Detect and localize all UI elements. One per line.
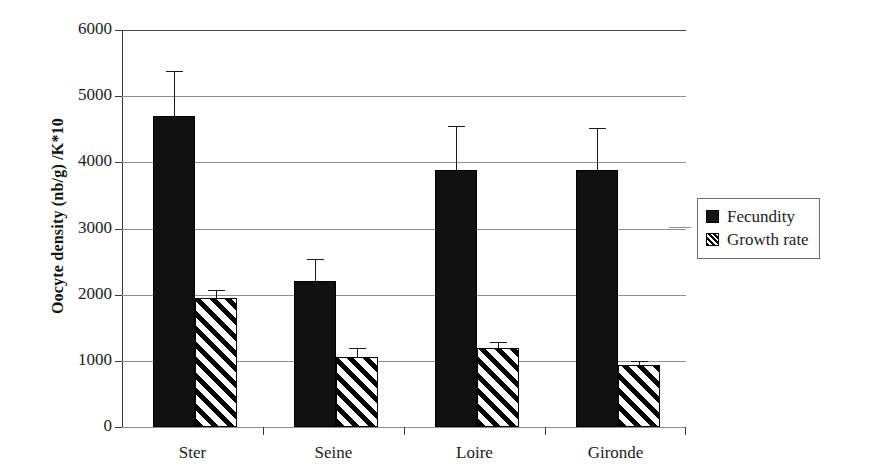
error-bar-stem: [216, 290, 217, 299]
y-axis-tick: [115, 427, 122, 428]
y-axis-tick-label: 6000: [78, 19, 112, 39]
bar-chart: Oocyte density (nb/g) /K*10 010002000300…: [0, 0, 873, 474]
y-axis-tick-label: 0: [104, 416, 113, 436]
y-axis-tick: [115, 162, 122, 163]
plot-area: 0100020003000400050006000SterSeineLoireG…: [122, 31, 686, 428]
error-bar-stem: [174, 71, 175, 117]
x-axis-separator-tick: [404, 427, 405, 435]
bar-fecundity: [294, 281, 336, 427]
bar-growth-rate: [618, 365, 660, 427]
gridline: [122, 30, 686, 31]
legend-item-label: Fecundity: [727, 207, 795, 227]
y-axis-tick: [115, 96, 122, 97]
solid-black-square-icon: [706, 210, 719, 223]
y-axis-tick-label: 3000: [78, 218, 112, 238]
x-axis-separator-tick: [263, 427, 264, 435]
error-bar-stem: [456, 126, 457, 171]
y-axis-title: Oocyte density (nb/g) /K*10: [49, 51, 67, 381]
y-axis-tick: [115, 30, 122, 31]
error-bar-stem: [498, 342, 499, 349]
x-axis-tick-label: Gironde: [588, 443, 644, 463]
x-axis-end-tick: [685, 427, 686, 435]
bar-fecundity: [576, 170, 618, 427]
gridline: [122, 162, 686, 163]
error-bar-cap: [448, 126, 465, 127]
y-axis-tick: [115, 229, 122, 230]
bar-growth-rate: [477, 348, 519, 427]
bar-growth-rate: [195, 298, 237, 427]
bar-fecundity: [153, 116, 195, 427]
y-axis-tick: [115, 361, 122, 362]
x-axis-tick-label: Seine: [315, 443, 353, 463]
x-axis-tick-label: Ster: [179, 443, 206, 463]
error-bar-cap: [349, 348, 366, 349]
error-bar-cap: [631, 361, 648, 362]
x-axis-tick-label: Loire: [456, 443, 493, 463]
error-bar-cap: [490, 342, 507, 343]
y-axis-tick-label: 5000: [78, 86, 112, 106]
legend-item[interactable]: Growth rate: [706, 228, 809, 251]
hatched-square-icon: [706, 233, 719, 246]
gridline: [122, 96, 686, 97]
error-bar-stem: [597, 128, 598, 172]
y-axis-tick-label: 2000: [78, 284, 112, 304]
error-bar-cap: [307, 259, 324, 260]
error-bar-cap: [589, 128, 606, 129]
legend-item-label: Growth rate: [727, 230, 809, 250]
bar-growth-rate: [336, 357, 378, 427]
bar-fecundity: [435, 170, 477, 427]
x-axis-separator-tick: [545, 427, 546, 435]
chart-legend: FecundityGrowth rate: [697, 198, 820, 259]
y-axis-tick: [115, 295, 122, 296]
error-bar-stem: [315, 259, 316, 282]
legend-item[interactable]: Fecundity: [706, 205, 809, 228]
y-axis-tick-label: 1000: [78, 350, 112, 370]
legend-leader-line: [669, 227, 691, 228]
error-bar-cap: [166, 71, 183, 72]
error-bar-stem: [357, 348, 358, 358]
y-axis-line: [122, 31, 123, 428]
y-axis-tick-label: 4000: [78, 152, 112, 172]
error-bar-cap: [208, 290, 225, 291]
